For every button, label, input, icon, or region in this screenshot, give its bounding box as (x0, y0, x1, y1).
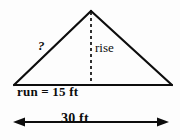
triangle-left-slope (14, 11, 91, 85)
unknown-side-label: ? (38, 39, 45, 52)
run-label: run = 15 ft (17, 85, 78, 98)
triangle-diagram-svg (0, 0, 180, 140)
geometry-figure: ? rise run = 15 ft 30 ft (0, 0, 180, 140)
rise-label: rise (95, 41, 114, 54)
span-label: 30 ft (61, 112, 89, 126)
span-arrowhead-right (157, 117, 169, 126)
span-arrowhead-left (13, 117, 25, 126)
